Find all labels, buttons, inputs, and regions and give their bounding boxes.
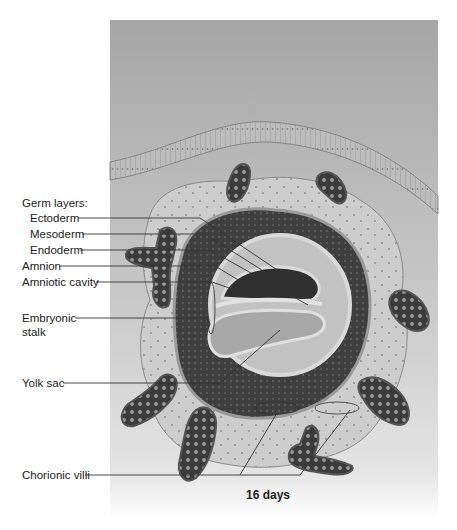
- label-germ-layers: Germ layers:: [22, 197, 88, 210]
- label-mesoderm: Mesoderm: [30, 228, 84, 241]
- label-embryonic-stalk-1: Embryonic: [22, 312, 76, 325]
- figure-caption: 16 days: [246, 488, 290, 502]
- label-embryonic-stalk-2: stalk: [22, 326, 46, 339]
- label-amniotic-cavity: Amniotic cavity: [22, 276, 99, 289]
- label-endoderm: Endoderm: [30, 244, 83, 257]
- label-amnion: Amnion: [22, 260, 61, 273]
- label-chorionic-villi: Chorionic villi: [22, 469, 90, 482]
- label-ectoderm: Ectoderm: [30, 212, 79, 225]
- label-yolk-sac: Yolk sac: [22, 377, 64, 390]
- embryo-illustration: [0, 0, 457, 530]
